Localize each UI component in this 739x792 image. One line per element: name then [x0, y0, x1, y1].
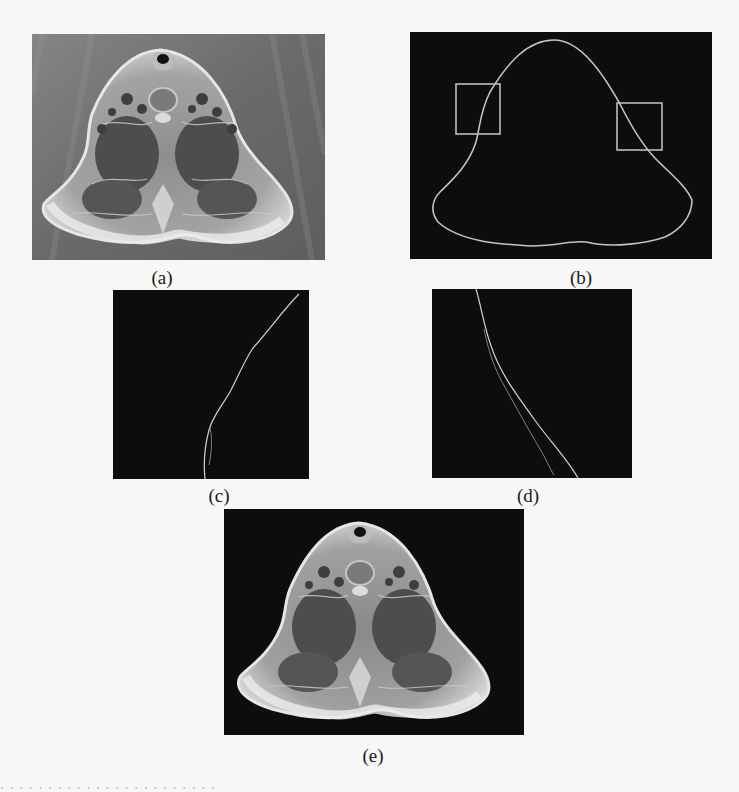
neck-cross-section-image	[32, 34, 325, 260]
contour-image	[410, 32, 712, 259]
caption-a: (a)	[151, 268, 172, 287]
panel-d-right-detail	[432, 289, 632, 478]
panel-e-segmented-image	[224, 509, 524, 735]
panel-c-left-detail	[113, 290, 309, 479]
cut-off-caption-text: · · · · · · · · · · · · · · · · · · · · …	[0, 780, 739, 792]
segmented-cross-section	[224, 509, 524, 735]
highlight-box-left	[456, 84, 500, 134]
caption-d: (d)	[517, 486, 539, 505]
caption-b: (b)	[570, 268, 592, 287]
caption-c: (c)	[208, 486, 229, 505]
panel-b-contour	[410, 32, 712, 259]
caption-e: (e)	[362, 746, 383, 765]
panel-a-original-image	[32, 34, 325, 260]
left-contour-detail	[113, 290, 309, 479]
right-contour-detail	[432, 289, 632, 478]
